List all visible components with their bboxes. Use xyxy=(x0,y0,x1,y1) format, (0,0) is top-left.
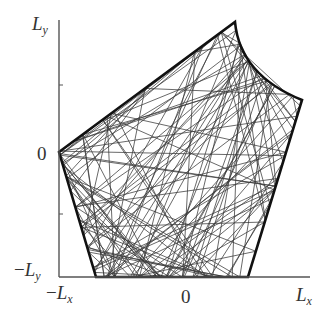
trajectory-segment xyxy=(232,46,240,277)
trajectory-segment xyxy=(63,32,221,166)
label-prefix: − xyxy=(46,282,57,303)
label-prefix: − xyxy=(14,259,25,280)
label-subscript: x xyxy=(67,292,72,306)
trajectory-segment xyxy=(136,30,236,277)
y-axis-bottom-label: −Ly xyxy=(14,260,41,282)
trajectory-segment xyxy=(67,46,241,179)
x-axis-zero-label: 0 xyxy=(181,287,191,306)
trajectory-segment xyxy=(73,79,266,142)
trajectory-segment xyxy=(67,179,136,277)
label-base: L xyxy=(296,284,307,305)
trajectory-segment xyxy=(248,59,284,162)
trajectory-segment xyxy=(140,178,278,277)
y-axis-zero-label: 0 xyxy=(37,144,47,163)
y-axis-top-label: Ly xyxy=(32,14,48,36)
billiard-plot xyxy=(0,0,332,316)
trajectory-lines xyxy=(59,30,300,277)
trajectory-segment xyxy=(73,76,262,142)
label-base: L xyxy=(25,259,36,280)
label-base: L xyxy=(32,13,43,34)
label-subscript: y xyxy=(35,269,40,283)
label-text: 0 xyxy=(37,143,47,164)
billiard-figure: Ly 0 −Ly −Lx 0 Lx xyxy=(0,0,332,316)
label-subscript: y xyxy=(43,23,48,37)
label-subscript: x xyxy=(307,294,312,308)
x-axis-right-label: Lx xyxy=(296,285,312,307)
label-text: 0 xyxy=(181,286,191,307)
label-base: L xyxy=(57,282,68,303)
x-axis-left-label: −Lx xyxy=(46,283,73,305)
